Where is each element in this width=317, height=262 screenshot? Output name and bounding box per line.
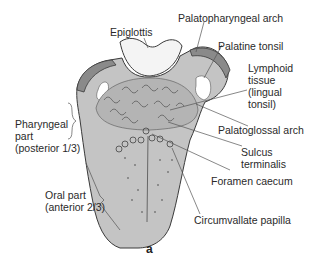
label-oral-part: Oral part (anterior 2/3) bbox=[45, 189, 105, 213]
label-circumvallate-papilla: Circumvallate papilla bbox=[194, 214, 291, 226]
label-palatoglossal-arch: Palatoglossal arch bbox=[218, 124, 304, 136]
label-sulcus-terminalis: Sulcus terminalis bbox=[241, 146, 286, 170]
panel-label: a bbox=[146, 242, 153, 256]
label-pharyngeal-part: Pharyngeal part (posterior 1/3) bbox=[15, 118, 80, 154]
label-palatine-tonsil: Palatine tonsil bbox=[218, 40, 283, 52]
label-lymphoid-tissue: Lymphoid tissue (lingual tonsil) bbox=[248, 62, 293, 110]
label-foramen-caecum: Foramen caecum bbox=[211, 175, 293, 187]
label-epiglottis: Epiglottis bbox=[110, 26, 153, 38]
label-palatopharyngeal-arch: Palatopharyngeal arch bbox=[178, 12, 283, 24]
